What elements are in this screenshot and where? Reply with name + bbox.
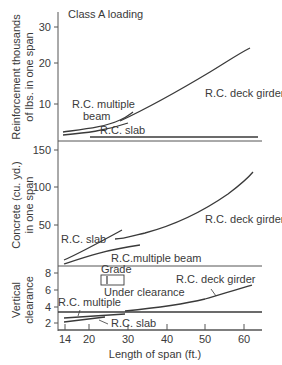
svg-text:40: 40 <box>161 333 173 345</box>
svg-text:10: 10 <box>39 98 51 110</box>
bot-slab-label: R.C. slab <box>111 317 156 329</box>
grade-label: Grade <box>101 263 132 275</box>
mid-ylabel-line2: in one span <box>23 177 35 234</box>
svg-text:30: 30 <box>122 333 134 345</box>
y-axis-labels: Reinforcement thousands of lbs. in one s… <box>10 14 35 324</box>
chart-title: Class A loading <box>68 8 143 20</box>
engineering-chart: 30 20 10 150 100 50 8 6 4 2 14 20 30 40 … <box>0 0 282 365</box>
top-ylabel-line1: Reinforcement thousands <box>10 14 22 140</box>
svg-text:6: 6 <box>45 284 51 296</box>
mid-ylabel-line1: Concrete (cu. yd.) <box>10 161 22 248</box>
mid-deck-girder-label: R.C. deck girder <box>205 213 282 225</box>
svg-text:50: 50 <box>199 333 211 345</box>
bot-multiple-label: R.C. multiple <box>58 296 121 308</box>
svg-text:20: 20 <box>39 57 51 69</box>
top-deck-girder-label: R.C. deck girder <box>205 87 282 99</box>
svg-text:2: 2 <box>45 317 51 329</box>
svg-text:4: 4 <box>45 301 51 313</box>
svg-text:8: 8 <box>45 267 51 279</box>
svg-text:60: 60 <box>238 333 250 345</box>
mid-slab-label: R.C. slab <box>61 233 106 245</box>
svg-text:20: 20 <box>83 333 95 345</box>
top-deck-girder <box>120 48 250 121</box>
bot-ylabel-line2: clearance <box>23 276 35 324</box>
x-axis-label: Length of span (ft.) <box>109 348 201 360</box>
x-tick-labels: 14 20 30 40 50 60 <box>59 333 250 345</box>
bot-deck-girder-label: R.C. deck girder <box>176 273 256 285</box>
grade-box <box>101 275 124 285</box>
annotations: Class A loading R.C. multiple beam R.C. … <box>58 8 282 329</box>
y-tick-labels: 30 20 10 150 100 50 8 6 4 2 <box>33 21 51 329</box>
mid-deck-girder <box>115 172 253 239</box>
bot-ylabel-line1: Vertical <box>10 282 22 318</box>
top-multiple-beam-label: R.C. multiple <box>72 98 135 110</box>
svg-text:150: 150 <box>33 144 51 156</box>
top-ylabel-line2: of lbs. in one span <box>23 32 35 121</box>
top-multiple-beam-label-2: beam <box>83 110 111 122</box>
svg-text:100: 100 <box>33 181 51 193</box>
top-slab-label: R.C. slab <box>100 124 145 136</box>
svg-text:14: 14 <box>59 333 71 345</box>
svg-text:50: 50 <box>39 219 51 231</box>
svg-text:30: 30 <box>39 21 51 33</box>
